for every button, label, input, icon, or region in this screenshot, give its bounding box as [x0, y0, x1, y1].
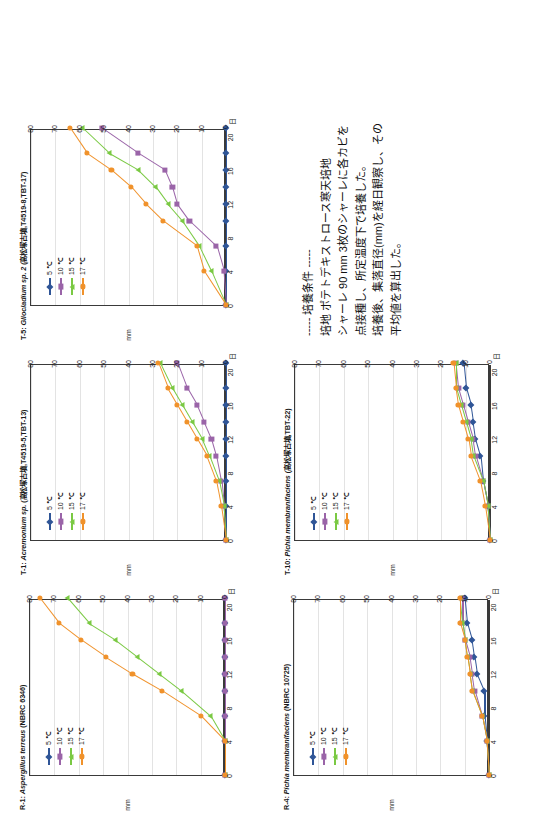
data-point — [208, 713, 213, 719]
y-axis-tick: 70 — [314, 595, 321, 625]
chart-title-r-4: R-4: Pichia membranifaciens (NBRC 10725) — [282, 595, 291, 810]
legend: 5 ℃10 ℃15 ℃17 ℃ — [308, 727, 352, 765]
x-axis-tick: 16 — [226, 637, 233, 645]
legend-item: 10 ℃ — [320, 492, 331, 530]
legend-item: 5 ℃ — [45, 492, 56, 530]
data-point — [180, 218, 185, 224]
plot-area-r-1: 01020304050607080mm048121620日5 ℃10 ℃15 ℃… — [29, 595, 244, 810]
y-axis-tick: 60 — [75, 125, 82, 155]
legend-label: 15 ℃ — [68, 492, 76, 510]
y-axis-tick: 20 — [172, 595, 179, 625]
legend-swatch — [48, 748, 49, 765]
legend-label: 10 ℃ — [57, 257, 65, 275]
chart-title-prefix: T-1: — [19, 561, 28, 576]
legend-label: 15 ℃ — [68, 257, 76, 275]
legend-item: 17 ℃ — [78, 492, 89, 530]
legend-swatch — [324, 513, 325, 530]
data-point — [184, 386, 189, 391]
plot-area-t-5: 01020304050607080mm048121620日5 ℃10 ℃15 ℃… — [30, 125, 245, 340]
legend-item: 15 ℃ — [331, 492, 342, 530]
marker-square-icon — [322, 754, 327, 759]
x-axis-tick: 16 — [227, 167, 234, 175]
legend-label: 15 ℃ — [331, 727, 339, 745]
legend-swatch — [49, 278, 50, 295]
y-axis-tick: 60 — [75, 360, 82, 390]
legend-label: 17 ℃ — [342, 727, 350, 745]
data-point — [179, 688, 184, 694]
legend-swatch — [334, 748, 335, 765]
data-point — [165, 201, 170, 207]
marker-triangle-icon — [333, 754, 338, 760]
y-axis-tick: 20 — [437, 360, 444, 390]
x-axis-baseline — [488, 600, 489, 775]
x-axis-unit-label: 日 — [226, 588, 236, 595]
gridline — [129, 130, 130, 305]
x-axis-tick: 20 — [491, 369, 498, 377]
legend-swatch — [59, 748, 60, 765]
y-axis-tick: 20 — [436, 595, 443, 625]
gridline — [103, 600, 104, 775]
gridline — [177, 365, 178, 540]
legend-swatch — [71, 278, 72, 295]
chart-title-suffix: (高松塚古墳,T4519-8,TBT-17) — [19, 172, 28, 267]
legend-label: 5 ℃ — [309, 731, 317, 745]
legend-swatch — [345, 748, 346, 765]
chart-title-suffix: (NBRC 6346) — [18, 685, 27, 730]
legend-label: 17 ℃ — [343, 492, 351, 510]
legend: 5 ℃10 ℃15 ℃17 ℃ — [309, 492, 353, 530]
gridline — [441, 365, 442, 540]
data-point — [64, 595, 69, 601]
legend-label: 10 ℃ — [57, 492, 65, 510]
x-axis-tick: 0 — [490, 774, 497, 778]
y-axis-tick: 10 — [461, 360, 468, 390]
data-point — [480, 687, 487, 694]
y-axis-label: mm — [388, 563, 395, 577]
note-line: ----- 培養条件 ----- — [300, 123, 318, 336]
chart-panel-t-10: T-10: Pichia membranifaciens (高松塚古墳,TBT-… — [282, 360, 509, 575]
chart-title-t-5: T-5: Gliocladium sp. 2 (高松塚古墳,T4519-8,TB… — [18, 125, 28, 340]
legend-swatch — [82, 513, 83, 530]
y-axis-label: mm — [387, 798, 394, 812]
legend: 5 ℃10 ℃15 ℃17 ℃ — [45, 257, 89, 295]
gridline — [393, 365, 394, 540]
y-axis-tick: 60 — [339, 360, 346, 390]
chart-title-t-1: T-1: Acremonium sp. (高松塚古墳,T4519-5,TBT-1… — [18, 360, 28, 575]
x-axis-tick: 20 — [490, 604, 497, 612]
gridline — [31, 365, 32, 540]
x-axis-baseline — [489, 365, 490, 540]
data-point — [222, 713, 227, 718]
y-axis-tick: 70 — [50, 595, 57, 625]
x-axis-tick: 8 — [491, 472, 498, 476]
x-axis-tick: 8 — [490, 707, 497, 711]
legend-swatch — [346, 513, 347, 530]
y-axis-tick: 50 — [100, 360, 107, 390]
y-axis-tick: 30 — [148, 125, 155, 155]
y-axis-tick: 60 — [338, 595, 345, 625]
data-point — [170, 184, 175, 189]
marker-square-icon — [58, 754, 63, 759]
legend-item: 10 ℃ — [56, 492, 67, 530]
data-point — [162, 168, 167, 173]
gridline — [368, 365, 369, 540]
legend-item: 17 ℃ — [78, 257, 89, 295]
legend-item: 5 ℃ — [309, 492, 320, 530]
legend-item: 5 ℃ — [308, 727, 319, 765]
gridline — [152, 600, 153, 775]
legend-item: 17 ℃ — [77, 727, 88, 765]
data-point — [187, 218, 192, 223]
chart-title-t-10: T-10: Pichia membranifaciens (高松塚古墳,TBT-… — [282, 360, 292, 575]
y-axis-tick: 10 — [460, 595, 467, 625]
data-point — [86, 620, 91, 626]
y-axis-label: mm — [124, 563, 131, 577]
marker-diamond-icon — [309, 753, 316, 760]
legend-swatch — [70, 748, 71, 765]
legend-swatch — [60, 513, 61, 530]
y-axis-tick: 40 — [388, 360, 395, 390]
series-line — [225, 741, 226, 775]
legend-swatch — [49, 513, 50, 530]
y-axis-tick: 20 — [173, 125, 180, 155]
x-axis-tick: 0 — [227, 539, 234, 543]
series-line — [225, 691, 226, 716]
legend-item: 17 ℃ — [341, 727, 352, 765]
x-axis-tick: 0 — [491, 539, 498, 543]
